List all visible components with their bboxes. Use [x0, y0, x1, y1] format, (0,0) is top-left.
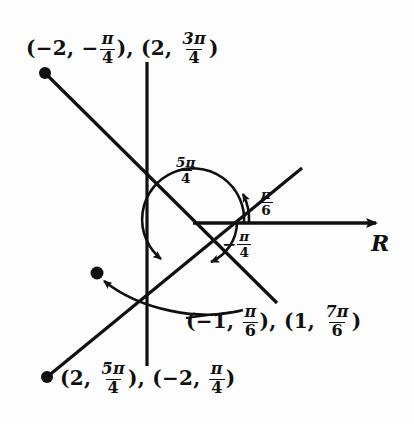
top-left-fraction-two-numerator: 3π: [180, 31, 207, 48]
negative-pi-over-four-sign: −: [222, 234, 236, 254]
five-pi-over-four-denominator: 4: [179, 170, 192, 185]
top-left-fraction-one-denominator: 4: [100, 49, 115, 67]
bottom-left-fraction-two-denominator: 4: [209, 379, 224, 397]
negative-pi-over-four-numerator: π: [237, 229, 251, 243]
negative-pi-over-four-denominator: 4: [237, 244, 250, 259]
lower-middle-fraction-one-numerator: π: [243, 304, 259, 321]
top-left-close-paren: ): [209, 36, 219, 60]
lower-middle-separator: ), (: [260, 309, 294, 333]
pi-over-six-numerator: π: [259, 187, 273, 201]
lower-middle-fraction-two-denominator: 6: [329, 322, 344, 340]
five-pi-over-four-fraction: 5π4: [174, 155, 197, 186]
coordinate-label-top-left: (−2, −π4), (2, 3π4): [26, 32, 219, 68]
point-lower-left: [41, 371, 53, 383]
lower-middle-fraction-one-denominator: 6: [243, 322, 258, 340]
lower-middle-radius-two: 1,: [294, 309, 323, 333]
angle-label-negative-pi-over-four: −π4: [222, 230, 252, 261]
top-left-fraction-one-numerator: π: [100, 31, 116, 48]
top-left-fraction-two-denominator: 4: [186, 49, 201, 67]
bottom-left-close-paren: ): [226, 366, 236, 390]
point-upper-left: [39, 67, 51, 79]
lower-middle-open-paren: (: [186, 309, 196, 333]
polar-coordinate-figure: (−2, −π4), (2, 3π4) (2, 5π4), (−2, π4) (…: [0, 0, 414, 424]
lower-middle-fraction-one: π6: [243, 304, 259, 340]
bottom-left-fraction-one-denominator: 4: [106, 379, 121, 397]
line-three-pi-over-four: [45, 73, 277, 303]
pi-over-six-fraction: π6: [259, 187, 273, 218]
lower-middle-fraction-two-numerator: 7π: [323, 304, 350, 321]
bottom-left-fraction-two-numerator: π: [209, 361, 225, 378]
bottom-left-fraction-one: 5π4: [100, 361, 127, 397]
coordinate-label-lower-middle: (−1, π6), (1, 7π6): [186, 305, 362, 341]
top-left-fraction-two: 3π4: [180, 31, 207, 67]
top-left-radius-two: 2,: [151, 36, 180, 60]
bottom-left-radius-one: 2,: [70, 366, 99, 390]
lower-middle-radius-one: −1,: [196, 309, 242, 333]
bottom-left-fraction-two: π4: [209, 361, 225, 397]
coordinate-label-bottom-left: (2, 5π4), (−2, π4): [60, 362, 236, 398]
five-pi-over-four-numerator: 5π: [174, 155, 197, 169]
axis-label-r: R: [371, 232, 389, 254]
pi-over-six-denominator: 6: [259, 202, 272, 217]
top-left-open-paren: (: [26, 36, 36, 60]
angle-label-five-pi-over-four: 5π4: [173, 156, 198, 187]
top-left-radius-one: −2, −: [36, 36, 99, 60]
bottom-left-radius-two: −2,: [162, 366, 208, 390]
bottom-left-open-paren: (: [60, 366, 70, 390]
point-left-middle: [91, 267, 104, 280]
lower-middle-close-paren: ): [352, 309, 362, 333]
top-left-separator: ), (: [117, 36, 151, 60]
top-left-fraction-one: π4: [100, 31, 116, 67]
negative-pi-over-four-fraction: π4: [237, 229, 251, 260]
angle-label-pi-over-six: π6: [258, 188, 274, 219]
bottom-left-fraction-one-numerator: 5π: [100, 361, 127, 378]
lower-middle-fraction-two: 7π6: [323, 304, 350, 340]
bottom-left-separator: ), (: [128, 366, 162, 390]
